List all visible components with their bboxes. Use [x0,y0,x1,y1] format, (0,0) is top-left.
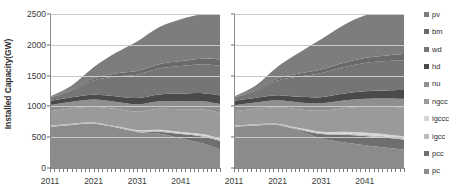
x-minor-tick [194,168,195,172]
legend-swatch-icon [424,82,429,87]
x-minor-tick [129,168,130,172]
y-tick-mark [231,106,235,107]
x-tick-label: 2031 [312,176,331,186]
x-minor-tick [382,168,383,172]
x-minor-tick [155,168,156,172]
x-minor-tick [256,168,257,172]
legend-item-bm[interactable]: bm [424,26,442,37]
x-minor-tick [291,168,292,172]
x-minor-tick [76,168,77,172]
y-tick-mark [47,137,51,138]
x-axis-minor-ticks-left [50,168,220,172]
y-tick-mark [47,14,51,15]
x-minor-tick [176,168,177,172]
y-tick-mark [231,75,235,76]
x-minor-tick [321,168,322,172]
y-tick-mark [47,168,51,169]
legend-swatch-icon [424,29,429,34]
x-minor-tick [67,168,68,172]
x-minor-tick [94,168,95,172]
x-minor-tick [369,168,370,172]
legend-label: ngcc [432,98,448,106]
y-tick-mark [231,44,235,45]
x-tick-label: 2011 [225,176,243,186]
y-tick-label: 2500 [16,9,46,19]
legend-swatch-icon [424,12,429,17]
x-minor-tick [282,168,283,172]
x-minor-tick [347,168,348,172]
y-axis-line-left [50,14,51,168]
x-minor-tick [404,168,405,172]
legend-item-ngcc[interactable]: ngcc [424,96,448,107]
x-minor-tick [72,168,73,172]
x-minor-tick [378,168,379,172]
x-minor-tick [203,168,204,172]
x-minor-tick [107,168,108,172]
legend-label: igcc [432,133,445,141]
legend-label: pcc [432,150,444,158]
x-minor-tick [326,168,327,172]
legend-label: pc [432,167,440,175]
stacked-area-series-left [50,14,220,168]
x-minor-tick [299,168,300,172]
legend-swatch-icon [424,99,429,104]
x-minor-tick [313,168,314,172]
x-minor-tick [387,168,388,172]
legend-label: pv [432,11,440,19]
x-minor-tick [216,168,217,172]
y-tick-mark [47,75,51,76]
legend-item-nu[interactable]: nu [424,79,440,90]
legend-label: hd [432,63,440,71]
x-minor-tick [391,168,392,172]
x-minor-tick [234,168,235,172]
x-minor-tick [339,168,340,172]
x-minor-tick [295,168,296,172]
x-minor-tick [98,168,99,172]
chart-legend: pvbmwdhdnungccigcccigccpccpc [424,9,457,189]
x-minor-tick [220,168,221,172]
x-minor-tick [278,168,279,172]
legend-item-pc[interactable]: pc [424,166,440,177]
x-minor-tick [198,168,199,172]
x-tick-label: 2031 [128,176,147,186]
x-minor-tick [211,168,212,172]
legend-item-wd[interactable]: wd [424,44,442,55]
gridline [50,137,220,138]
x-minor-tick [238,168,239,172]
x-minor-tick [260,168,261,172]
x-minor-tick [124,168,125,172]
y-tick-label: 1000 [16,101,46,111]
x-minor-tick [317,168,318,172]
legend-item-igcc[interactable]: igcc [424,131,445,142]
legend-swatch-icon [424,64,429,69]
chart-panel-left: 050010001500200025002011202120312041 [0,0,228,193]
plot-area-left: 050010001500200025002011202120312041 [50,14,220,168]
legend-item-hd[interactable]: hd [424,61,440,72]
x-minor-tick [352,168,353,172]
chart-panel-right: 2011202120312041 [222,0,422,193]
x-minor-tick [89,168,90,172]
x-minor-tick [360,168,361,172]
y-tick-label: 500 [16,132,46,142]
x-minor-tick [115,168,116,172]
gridline [234,137,404,138]
y-tick-label: 0 [16,163,46,173]
stacked-area-series-right [234,14,404,168]
gridline [234,106,404,107]
plot-area-right: 2011202120312041 [234,14,404,168]
legend-item-pv[interactable]: pv [424,9,440,20]
x-minor-tick [168,168,169,172]
y-tick-label: 2000 [16,40,46,50]
x-minor-tick [190,168,191,172]
x-minor-tick [207,168,208,172]
x-minor-tick [251,168,252,172]
legend-swatch-icon [424,47,429,52]
x-minor-tick [163,168,164,172]
legend-item-pcc[interactable]: pcc [424,148,444,159]
legend-item-igccc[interactable]: igccc [424,113,449,124]
gridline [234,45,404,46]
x-minor-tick [365,168,366,172]
x-minor-tick [286,168,287,172]
gridline [234,14,404,15]
x-minor-tick [111,168,112,172]
